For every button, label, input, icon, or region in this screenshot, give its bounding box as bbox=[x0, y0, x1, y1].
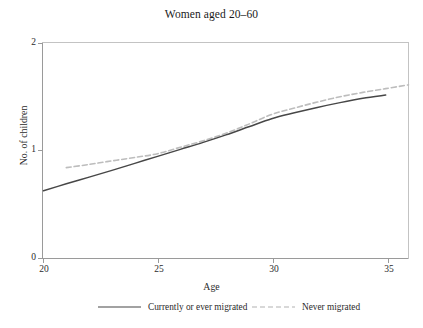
y-tick-label-0: 0 bbox=[18, 252, 36, 262]
plot-area bbox=[0, 0, 423, 328]
x-tick-label-20: 20 bbox=[33, 264, 55, 274]
series-line-currently-or-ever-migrated bbox=[44, 95, 386, 191]
legend-swatch-dashed-icon bbox=[252, 303, 295, 311]
x-tick-label-35: 35 bbox=[378, 264, 400, 274]
series-line-never-migrated bbox=[66, 85, 408, 168]
legend-label-currently-or-ever-migrated: Currently or ever migrated bbox=[148, 302, 247, 312]
x-axis-label: Age bbox=[0, 281, 423, 292]
chart-legend: Currently or ever migrated Never migrate… bbox=[0, 300, 423, 320]
legend-item-currently-or-ever-migrated[interactable]: Currently or ever migrated bbox=[98, 300, 247, 314]
legend-label-never-migrated: Never migrated bbox=[302, 302, 360, 312]
legend-item-never-migrated[interactable]: Never migrated bbox=[252, 300, 360, 314]
x-tick-label-30: 30 bbox=[263, 264, 285, 274]
chart-figure: Women aged 20–60 2 1 0 20 25 30 35 No. o… bbox=[0, 0, 423, 328]
x-tick-label-25: 25 bbox=[148, 264, 170, 274]
y-tick-label-2: 2 bbox=[18, 37, 36, 47]
legend-swatch-solid-icon bbox=[98, 303, 141, 311]
y-axis-label: No. of children bbox=[18, 81, 29, 191]
